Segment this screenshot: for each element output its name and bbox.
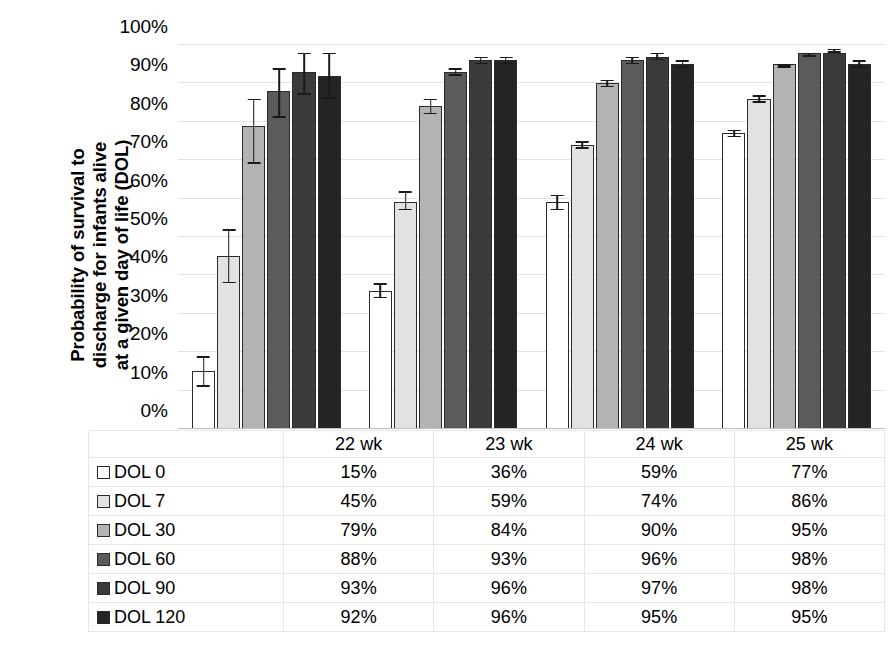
bar-DOL-60-23-wk[interactable] xyxy=(444,72,467,429)
table-column-header-23-wk: 23 wk xyxy=(434,431,584,458)
bar-DOL-30-23-wk[interactable] xyxy=(419,106,442,429)
error-bar xyxy=(405,191,407,210)
legend-entry-DOL-30: DOL 30 xyxy=(89,516,284,545)
bar-DOL-90-22-wk[interactable] xyxy=(292,72,315,429)
table-row: DOL 6088%93%96%98% xyxy=(89,545,885,574)
y-axis-tick-label: 50% xyxy=(98,209,168,228)
bar-slot xyxy=(773,45,796,429)
y-axis-tick-label: 40% xyxy=(98,247,168,266)
table-cell-DOL-0-24-wk: 59% xyxy=(584,458,734,487)
bar-slot xyxy=(267,45,290,429)
error-bar xyxy=(808,53,810,57)
bar-DOL-7-23-wk[interactable] xyxy=(394,202,417,429)
error-bar xyxy=(278,68,280,118)
error-bar xyxy=(632,57,634,65)
legend-entry-DOL-60: DOL 60 xyxy=(89,545,284,574)
table-cell-DOL-60-23-wk: 93% xyxy=(434,545,584,574)
bar-DOL-120-22-wk[interactable] xyxy=(318,76,341,429)
bar-slot xyxy=(722,45,745,429)
bar-DOL-30-24-wk[interactable] xyxy=(596,83,619,429)
bars xyxy=(192,45,341,429)
legend-label: DOL 120 xyxy=(114,607,185,627)
bar-group-25-wk xyxy=(708,45,885,429)
bar-slot xyxy=(671,45,694,429)
bar-slot xyxy=(621,45,644,429)
error-bar xyxy=(758,95,760,103)
data-table: 22 wk23 wk24 wk25 wkDOL 015%36%59%77%DOL… xyxy=(88,430,885,632)
bar-slot xyxy=(394,45,417,429)
bar-DOL-30-22-wk[interactable] xyxy=(242,126,265,429)
table-cell-DOL-120-22-wk: 92% xyxy=(284,603,434,632)
bar-DOL-7-24-wk[interactable] xyxy=(571,145,594,429)
y-axis-tick-label: 10% xyxy=(98,362,168,381)
bar-slot xyxy=(242,45,265,429)
bar-DOL-90-23-wk[interactable] xyxy=(469,60,492,429)
error-bar xyxy=(380,283,382,298)
bar-slot xyxy=(494,45,517,429)
error-bar xyxy=(505,57,507,65)
legend-label: DOL 30 xyxy=(114,520,175,540)
survival-probability-chart-figure: Probability of survival to discharge for… xyxy=(0,0,891,657)
y-axis-tick-label: 70% xyxy=(98,132,168,151)
plot-area xyxy=(178,45,885,429)
error-bar xyxy=(783,64,785,68)
error-bar xyxy=(581,141,583,149)
bar-DOL-60-25-wk[interactable] xyxy=(798,53,821,429)
bar-DOL-60-22-wk[interactable] xyxy=(267,91,290,429)
error-bar xyxy=(253,99,255,164)
error-bar xyxy=(833,49,835,53)
error-bar xyxy=(682,60,684,68)
bar-DOL-120-25-wk[interactable] xyxy=(848,64,871,429)
bar-DOL-0-24-wk[interactable] xyxy=(546,202,569,429)
bar-DOL-90-24-wk[interactable] xyxy=(646,57,669,429)
bar-slot xyxy=(798,45,821,429)
error-bar xyxy=(733,130,735,138)
error-bar xyxy=(607,80,609,88)
legend-label: DOL 0 xyxy=(114,462,165,482)
legend-swatch-icon xyxy=(97,524,110,537)
legend-label: DOL 7 xyxy=(114,491,165,511)
y-axis-tick-label: 100% xyxy=(98,17,168,36)
table-cell-DOL-7-23-wk: 59% xyxy=(434,487,584,516)
x-axis-line xyxy=(178,428,885,429)
table-row: DOL 12092%96%95%95% xyxy=(89,603,885,632)
bar-DOL-0-23-wk[interactable] xyxy=(369,291,392,429)
error-bar xyxy=(203,356,205,387)
bar-DOL-7-25-wk[interactable] xyxy=(747,99,770,429)
bar-slot xyxy=(419,45,442,429)
y-axis-tick-labels: 0%10%20%30%40%50%60%70%80%90%100% xyxy=(98,45,178,429)
table-cell-DOL-120-24-wk: 95% xyxy=(584,603,734,632)
bar-DOL-90-25-wk[interactable] xyxy=(823,53,846,429)
y-axis-tick-label: 0% xyxy=(98,401,168,420)
bar-slot xyxy=(546,45,569,429)
table-cell-DOL-0-25-wk: 77% xyxy=(734,458,884,487)
legend-entry-DOL-7: DOL 7 xyxy=(89,487,284,516)
error-bar xyxy=(480,57,482,65)
bar-DOL-120-23-wk[interactable] xyxy=(494,60,517,429)
error-bar xyxy=(455,68,457,76)
y-axis-tick-label: 60% xyxy=(98,170,168,189)
bar-DOL-30-25-wk[interactable] xyxy=(773,64,796,429)
bar-slot xyxy=(217,45,240,429)
legend-swatch-icon xyxy=(97,582,110,595)
bar-DOL-0-25-wk[interactable] xyxy=(722,133,745,429)
bar-DOL-120-24-wk[interactable] xyxy=(671,64,694,429)
y-axis-tick-label: 90% xyxy=(98,55,168,74)
table-header-row: 22 wk23 wk24 wk25 wk xyxy=(89,431,885,458)
bar-slot xyxy=(444,45,467,429)
table-cell-DOL-30-25-wk: 95% xyxy=(734,516,884,545)
bar-slot xyxy=(646,45,669,429)
bar-DOL-60-24-wk[interactable] xyxy=(621,60,644,429)
error-bar xyxy=(328,53,330,99)
y-axis-tick-label: 30% xyxy=(98,285,168,304)
legend-swatch-icon xyxy=(97,466,110,479)
bar-slot xyxy=(192,45,215,429)
table-cell-DOL-90-25-wk: 98% xyxy=(734,574,884,603)
table-cell-DOL-90-22-wk: 93% xyxy=(284,574,434,603)
table-cell-DOL-120-23-wk: 96% xyxy=(434,603,584,632)
legend-swatch-icon xyxy=(97,495,110,508)
table-corner-cell xyxy=(89,431,284,458)
bar-slot xyxy=(292,45,315,429)
bar-slot xyxy=(369,45,392,429)
legend-swatch-icon xyxy=(97,553,110,566)
